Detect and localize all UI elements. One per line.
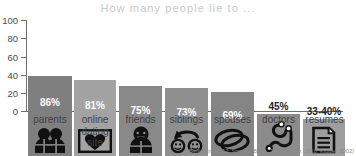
x-label-friends: friends [117,114,164,126]
x-label-resumes: resumes [301,114,348,126]
y-tick-label-20: 20 [7,88,18,99]
y-tick-label-100-wrap: 100 [0,20,26,21]
bar-chart: How many people lie to ... 100 80 60 40 … [0,0,356,156]
bar-value-online-dating-site: 81% [74,100,116,111]
x-label-online-line1: online [72,114,118,126]
x-label-online-line2: dating [72,126,118,138]
chart-title: How many people lie to ... [0,2,356,14]
x-label-online-dating-site: online dating site [72,114,118,149]
y-tick-label-80: 80 [7,33,18,44]
y-tick-label-40: 40 [7,70,18,81]
y-tick-label-60-wrap: 60 [0,57,26,58]
y-tick-label-20-wrap: 20 [0,93,26,94]
y-tick-label-100: 100 [2,15,18,26]
x-label-doctors: doctors [255,114,302,126]
x-label-online-line3: site [72,137,118,149]
x-label-siblings: siblings [163,114,210,126]
y-tick-label-0-wrap: 0 [0,111,26,112]
y-tick-label-60: 60 [7,52,18,63]
y-tick-label-40-wrap: 40 [0,75,26,76]
source-citation: (Benjamin, 2012; Statistic Brain, 2012; … [187,148,354,154]
y-tick-label-80-wrap: 80 [0,38,26,39]
y-tick-label-0: 0 [13,106,18,117]
x-label-spouses: spouses [209,114,256,126]
y-axis-line [26,20,27,112]
x-label-parents: parents [24,114,76,126]
bar-value-doctors: 45% [257,101,300,112]
bar-value-parents: 86% [28,97,72,108]
